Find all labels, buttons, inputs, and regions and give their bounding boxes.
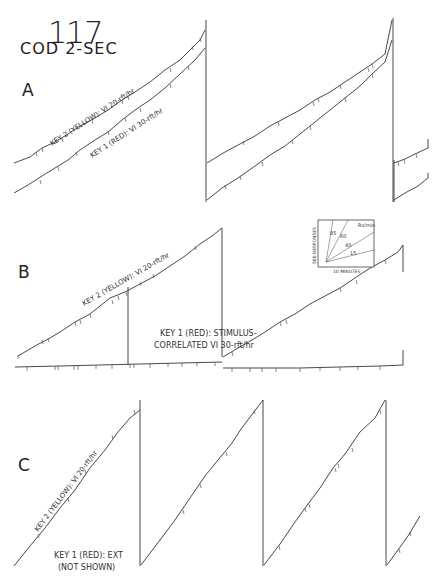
panel-a-key2-record-3 [394, 139, 428, 163]
panel-c-key2-record-3 [264, 400, 385, 565]
panel-b-key2-label: KEY 2 (YELLOW): VI 20-rft/hr [81, 251, 171, 308]
panel-c-key1-label-line1: KEY 1 (RED): EXT [54, 551, 123, 560]
rate-guide-inset: 85 60 40 15 Rs/min 10 MINUTES 500 RESPON… [312, 220, 375, 274]
inset-xlabel: 10 MINUTES [333, 269, 361, 274]
panel-c-key2-record-4 [387, 516, 420, 565]
panel-b-key1-label-line2: CORRELATED VI 30-rft/hr [154, 341, 255, 350]
inset-unit: Rs/min [358, 222, 375, 228]
panel-c: KEY 2 (YELLOW): VI 20-rft/hr KEY 1 (RED)… [14, 400, 420, 572]
panel-a-key1-record-1 [14, 48, 205, 193]
inset-label-15: 15 [350, 250, 356, 256]
panel-a-key2-record-2 [207, 20, 392, 163]
panel-a-key1-record-3 [394, 173, 428, 200]
panel-c-key1-label-line2: (NOT SHOWN) [58, 563, 115, 572]
inset-ylabel: 500 RESPONSES [312, 227, 317, 264]
panel-c-key2-record-1 [14, 410, 140, 566]
inset-label-60: 60 [340, 233, 346, 239]
panel-b-key1-record-1 [15, 362, 222, 367]
panel-b-key1-label-line1: KEY 1 (RED): STIMULUS- [160, 329, 257, 338]
panel-c-key2-label: KEY 2 (YELLOW): VI 20-rft/hr [33, 449, 99, 533]
inset-label-40: 40 [345, 242, 351, 248]
panel-a: KEY 2 (YELLOW): VI 20-rft/hr KEY 1 (RED)… [14, 18, 428, 202]
panel-b-key1-record-2 [223, 350, 403, 368]
panel-c-key2-record-2 [141, 400, 263, 565]
cumulative-record-figure: 117 COD 2-SEC A B C [0, 0, 439, 576]
panel-c-reinforcement-pips [38, 410, 411, 553]
panel-a-key1-record-2 [207, 40, 392, 200]
inset-label-85: 85 [330, 230, 336, 236]
records-svg: KEY 2 (YELLOW): VI 20-rft/hr KEY 1 (RED)… [0, 0, 439, 576]
